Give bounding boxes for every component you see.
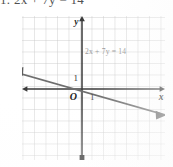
y-unit-tick-label: 1 bbox=[74, 73, 79, 83]
grid-lines bbox=[22, 16, 165, 160]
x-axis-label: x bbox=[158, 92, 164, 102]
y-tick-1: 1 bbox=[74, 73, 79, 83]
problem-text: 1. 2x + 7y = 14 bbox=[0, 0, 84, 7]
y-axis-label: y bbox=[73, 17, 79, 27]
problem-statement: 1. 2x + 7y = 14 bbox=[0, 0, 173, 7]
graph-figure: 1. 2x + 7y = 14 bbox=[0, 0, 173, 167]
axis-label-y: y bbox=[73, 17, 79, 27]
x-unit-tick-label: 1 bbox=[90, 92, 95, 102]
origin-label: O bbox=[70, 91, 77, 102]
coordinate-plane: y x O 1 1 2x + 7y = 14 bbox=[22, 16, 165, 160]
origin-label-group: O bbox=[70, 91, 77, 102]
axis-label-x: x bbox=[158, 92, 164, 102]
x-tick-1: 1 bbox=[90, 92, 95, 102]
equation-label: 2x + 7y = 14 bbox=[85, 47, 126, 56]
line-equation-annotation: 2x + 7y = 14 bbox=[85, 47, 126, 56]
